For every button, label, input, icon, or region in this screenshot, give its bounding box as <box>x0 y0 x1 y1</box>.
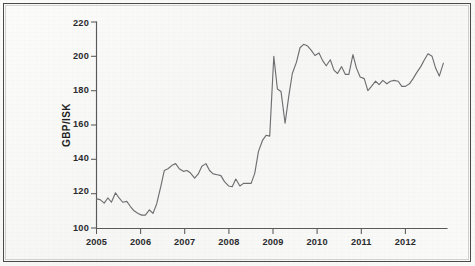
y-tick-label-100: 100 <box>73 223 89 233</box>
y-tick-label-180: 180 <box>73 85 89 95</box>
y-tick-label-200: 200 <box>73 51 89 61</box>
data-series-gbp-isk <box>97 44 444 215</box>
x-tick-label-2011: 2011 <box>351 237 372 247</box>
x-tick-label-2010: 2010 <box>306 237 327 247</box>
x-tick-label-2012: 2012 <box>395 237 416 247</box>
x-tick-label-2007: 2007 <box>174 237 195 247</box>
x-tick-label-2006: 2006 <box>130 237 151 247</box>
y-tick-label-120: 120 <box>73 186 89 196</box>
x-tick-label-2009: 2009 <box>262 237 283 247</box>
x-tick-label-2008: 2008 <box>218 237 239 247</box>
line-chart: GBP/ISK 220 200 180 160 140 120 100 2005… <box>0 0 475 266</box>
y-tick-label-160: 160 <box>73 119 89 129</box>
x-tick-label-2005: 2005 <box>86 237 107 247</box>
y-tick-label-220: 220 <box>73 18 89 28</box>
y-tick-label-140: 140 <box>73 153 89 163</box>
figure-page: GBP/ISK 220 200 180 160 140 120 100 2005… <box>0 0 475 266</box>
y-axis-label: GBP/ISK <box>61 103 72 147</box>
